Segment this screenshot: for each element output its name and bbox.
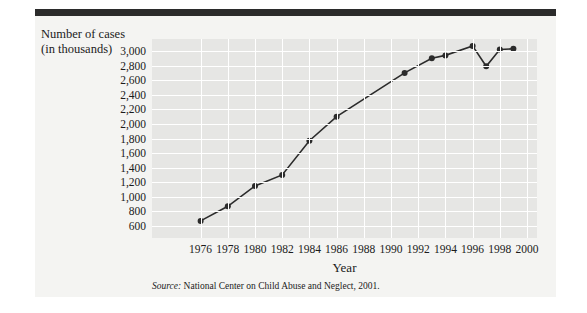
- y-tick-label: 2,200: [80, 103, 146, 115]
- x-axis-title: Year: [152, 260, 537, 276]
- y-tick-label: 1,600: [80, 147, 146, 159]
- x-tick-label: 1978: [216, 243, 239, 255]
- y-tick-label: 1,200: [80, 176, 146, 188]
- x-tick-label: 1988: [352, 243, 375, 255]
- y-axis-tick-labels: 3,0002,8002,6002,4002,2002,0001,8001,600…: [35, 39, 537, 238]
- x-tick-label: 1996: [461, 243, 484, 255]
- figure-header-bar: [35, 9, 556, 16]
- y-tick-label: 2,800: [80, 60, 146, 72]
- x-tick-label: 1982: [271, 243, 294, 255]
- x-tick-label: 1980: [244, 243, 267, 255]
- chart-figure: Number of cases (in thousands) 3,0002,80…: [35, 9, 556, 297]
- x-tick-label: 1998: [488, 243, 511, 255]
- source-label: Source:: [152, 281, 181, 291]
- x-tick-label: 1992: [407, 243, 430, 255]
- source-citation: Source: National Center on Child Abuse a…: [152, 281, 552, 291]
- y-tick-label: 2,000: [80, 118, 146, 130]
- y-tick-label: 2,400: [80, 89, 146, 101]
- y-tick-label: 1,400: [80, 162, 146, 174]
- x-tick-label: 1990: [380, 243, 403, 255]
- y-tick-label: 3,000: [80, 45, 146, 57]
- x-tick-label: 1986: [325, 243, 348, 255]
- x-tick-label: 1994: [434, 243, 457, 255]
- y-tick-label: 600: [80, 220, 146, 232]
- y-tick-label: 800: [80, 205, 146, 217]
- x-tick-label: 1976: [189, 243, 212, 255]
- y-tick-label: 1,000: [80, 191, 146, 203]
- y-tick-label: 1,800: [80, 133, 146, 145]
- y-tick-label: 2,600: [80, 74, 146, 86]
- x-axis-tick-labels: 1976197819801982198419861988199019921994…: [152, 243, 537, 259]
- x-tick-label: 1984: [298, 243, 321, 255]
- x-tick-label: 2000: [516, 243, 539, 255]
- source-body: National Center on Child Abuse and Negle…: [184, 281, 380, 291]
